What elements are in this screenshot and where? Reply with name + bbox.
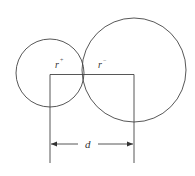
anion-radius-label: r [98,59,102,70]
ionic-radius-diagram: r + r − d [0,0,195,176]
anion-sign-label: − [103,57,107,63]
cation-radius-label: r [55,59,59,70]
diagram-svg: r + r − d [0,0,195,176]
distance-label: d [85,138,91,150]
cation-sign-label: + [60,57,64,63]
